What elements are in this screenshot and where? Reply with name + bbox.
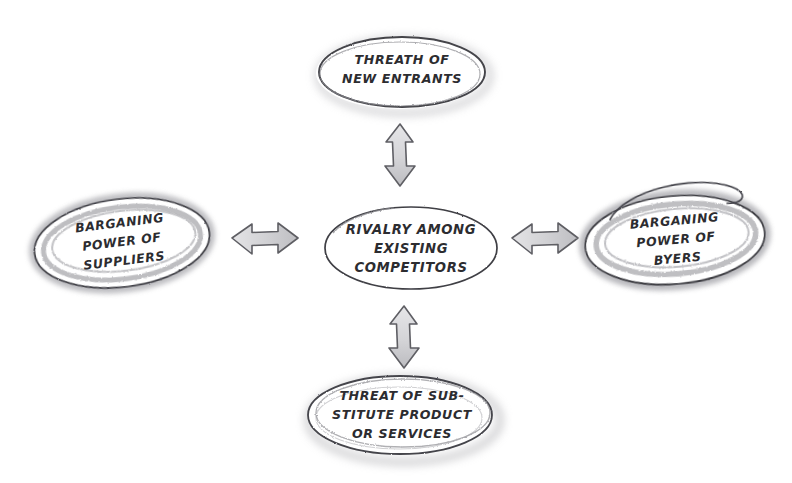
bottom-label-line-2: STITUTE PRODUCT	[332, 407, 473, 422]
center-label-line-1: RIVALRY AMONG	[346, 222, 476, 237]
left-arrow-shape	[232, 223, 298, 254]
node-bottom-threat-of-substitute-products[interactable]: THREAT OF SUB- STITUTE PRODUCT OR SERVIC…	[308, 376, 500, 462]
diagram-canvas: THREATH OF NEW ENTRANTS RIVALRY AMONG EX…	[0, 0, 792, 483]
center-label-line-3: COMPETITORS	[354, 260, 467, 275]
sketch-surface: THREATH OF NEW ENTRANTS RIVALRY AMONG EX…	[0, 0, 792, 483]
bottom-arrow-shape	[389, 306, 419, 368]
top-label-line-2: NEW ENTRANTS	[342, 71, 462, 86]
top-arrow-shape	[385, 124, 415, 186]
bottom-label-line-1: THREAT OF SUB-	[339, 388, 464, 403]
node-left-bargaining-power-of-suppliers[interactable]: BARGANING POWER OF SUPPLIERS	[29, 189, 214, 298]
center-label-line-2: EXISTING	[374, 241, 448, 256]
double-arrow-vertical-bottom[interactable]	[389, 306, 419, 368]
bottom-label-line-3: OR SERVICES	[352, 426, 452, 441]
double-arrow-horizontal-right[interactable]	[512, 223, 578, 254]
right-arrow-shape	[512, 223, 578, 254]
node-center-rivalry-among-existing-competitors[interactable]: RIVALRY AMONG EXISTING COMPETITORS	[325, 207, 497, 289]
node-top-threat-of-new-entrants[interactable]: THREATH OF NEW ENTRANTS	[316, 37, 490, 113]
double-arrow-vertical-top[interactable]	[385, 124, 415, 186]
node-right-bargaining-power-of-buyers[interactable]: BARGANING POWER OF BYERS	[580, 177, 768, 292]
double-arrow-horizontal-left[interactable]	[232, 223, 298, 254]
top-label-line-1: THREATH OF	[355, 52, 450, 67]
